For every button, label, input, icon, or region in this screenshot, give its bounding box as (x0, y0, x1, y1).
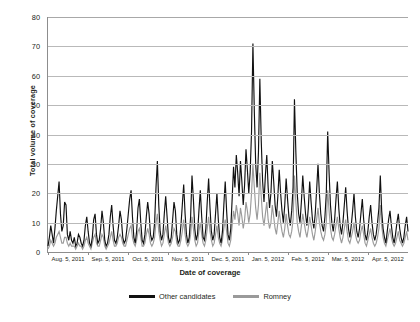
x-tick-mark (248, 252, 249, 255)
legend-label-romney: Romney (263, 292, 291, 301)
x-tick-label: Apr. 5, 2012 (372, 256, 404, 262)
x-tick-mark (368, 252, 369, 255)
x-tick-label: Sep. 5, 2011 (92, 256, 125, 262)
x-tick-label: Dec. 5, 2011 (212, 256, 245, 262)
y-tick-label: 50 (14, 101, 40, 110)
x-tick-mark (128, 252, 129, 255)
x-tick-label: Feb. 5, 2012 (291, 256, 324, 262)
x-tick-mark (88, 252, 89, 255)
x-tick-label: Mar. 5, 2012 (332, 256, 365, 262)
x-tick-label: Nov. 5, 2011 (172, 256, 205, 262)
y-tick-label: 70 (14, 42, 40, 51)
x-tick-label: Aug. 5, 2011 (52, 256, 85, 262)
x-axis-line (48, 252, 408, 253)
gridline (48, 164, 408, 165)
gridline (48, 223, 408, 224)
x-tick-mark (328, 252, 329, 255)
y-tick-label: 60 (14, 71, 40, 80)
y-tick-label: 40 (14, 130, 40, 139)
x-tick-label: Jan. 5, 2012 (252, 256, 284, 262)
y-tick-label: 20 (14, 189, 40, 198)
x-tick-mark (48, 252, 49, 255)
x-axis-title: Date of coverage (0, 268, 420, 277)
x-tick-label: Oct. 5, 2011 (132, 256, 164, 262)
gridline (48, 135, 408, 136)
gridline (48, 76, 408, 77)
x-tick-mark (288, 252, 289, 255)
legend-swatch-romney (233, 295, 259, 298)
y-tick-label: 80 (14, 13, 40, 22)
legend-label-other-candidates: Other candidates (159, 292, 215, 301)
legend-item-romney: Romney (233, 292, 291, 301)
gridline (48, 193, 408, 194)
x-tick-mark (208, 252, 209, 255)
gridline (48, 105, 408, 106)
gridline (48, 46, 408, 47)
legend-swatch-other-candidates (129, 295, 155, 298)
gridline (48, 17, 408, 18)
x-tick-mark (168, 252, 169, 255)
gridlines (48, 17, 408, 252)
y-tick-label: 10 (14, 218, 40, 227)
chart-legend: Other candidates Romney (0, 292, 420, 301)
plot-area (48, 17, 408, 252)
chart-figure: Total volume of coverage 010203040506070… (0, 0, 420, 322)
y-tick-label: 30 (14, 159, 40, 168)
legend-item-other-candidates: Other candidates (129, 292, 215, 301)
